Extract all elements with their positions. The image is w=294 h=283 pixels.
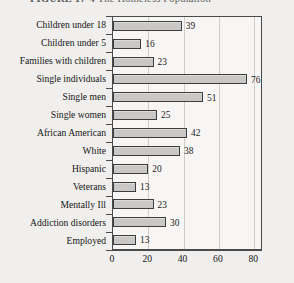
value-axis-labels: 020406080 <box>112 254 262 268</box>
bar-value-label: 13 <box>140 236 149 245</box>
bar-value-label: 51 <box>207 93 216 102</box>
bar-value-label: 25 <box>161 111 170 120</box>
bar <box>113 39 141 49</box>
bar <box>113 182 136 192</box>
bar-value-label: 20 <box>152 164 161 173</box>
bar-row: 13 <box>113 178 261 196</box>
bar-row: 38 <box>113 142 261 160</box>
category-label: Veterans <box>0 178 110 196</box>
category-axis-labels: Children under 18Children under 5Familie… <box>0 16 110 250</box>
bar-row: 16 <box>113 35 261 53</box>
bar <box>113 217 166 227</box>
bar-row: 76 <box>113 71 261 89</box>
bar-row: 30 <box>113 213 261 231</box>
bar-value-label: 23 <box>158 57 167 66</box>
value-tick-label: 80 <box>248 254 258 264</box>
bar-value-label: 38 <box>184 147 193 156</box>
value-tick-label: 40 <box>178 254 188 264</box>
bar-value-label: 30 <box>170 218 179 227</box>
bar-value-label: 16 <box>145 40 154 49</box>
category-label: Single individuals <box>0 70 110 88</box>
bar <box>113 128 187 138</box>
bar-row: 20 <box>113 160 261 178</box>
bar <box>113 199 154 209</box>
bar <box>113 92 203 102</box>
bar-chart: Children under 18Children under 5Familie… <box>0 10 294 283</box>
bar <box>113 146 180 156</box>
bar-row: 13 <box>113 231 261 249</box>
bar-row: 51 <box>113 88 261 106</box>
category-label: Single women <box>0 106 110 124</box>
category-label: Families with children <box>0 52 110 70</box>
bar-value-label: 23 <box>158 200 167 209</box>
bar <box>113 164 148 174</box>
category-label: Employed <box>0 232 110 250</box>
bar-value-label: 76 <box>251 75 260 84</box>
plot-area: 39162376512542382013233013 <box>112 16 262 250</box>
bar-value-label: 13 <box>140 182 149 191</box>
bar <box>113 57 154 67</box>
bar-row: 25 <box>113 106 261 124</box>
figure-number: FIGURE 17-4 <box>30 0 95 4</box>
category-label: Children under 5 <box>0 34 110 52</box>
bar <box>113 21 182 31</box>
value-axis-line <box>112 250 262 251</box>
bar-row: 23 <box>113 195 261 213</box>
bar-row: 23 <box>113 53 261 71</box>
bar-series: 39162376512542382013233013 <box>113 17 261 249</box>
bar-row: 42 <box>113 124 261 142</box>
category-label: Mentally Ill <box>0 196 110 214</box>
category-label: Addiction disorders <box>0 214 110 232</box>
value-tick-label: 60 <box>213 254 223 264</box>
value-tick-label: 0 <box>110 254 115 264</box>
bar <box>113 74 247 84</box>
value-tick-label: 20 <box>142 254 152 264</box>
bar <box>113 110 157 120</box>
category-label: Hispanic <box>0 160 110 178</box>
bar-row: 39 <box>113 17 261 35</box>
category-label: Children under 18 <box>0 16 110 34</box>
category-label: Single men <box>0 88 110 106</box>
category-label: African American <box>0 124 110 142</box>
bar-value-label: 39 <box>186 22 195 31</box>
figure-title: FIGURE 17-4 The Homeless Population <box>30 0 211 4</box>
bar-value-label: 42 <box>191 129 200 138</box>
figure-caption: The Homeless Population <box>98 0 211 4</box>
category-label: White <box>0 142 110 160</box>
bar <box>113 235 136 245</box>
